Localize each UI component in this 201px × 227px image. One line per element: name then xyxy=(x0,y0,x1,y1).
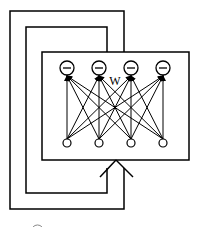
output-neuron xyxy=(60,61,74,75)
output-neuron xyxy=(124,61,138,75)
weight-label: W xyxy=(109,74,121,88)
output-neuron xyxy=(92,61,106,75)
network-diagram: W xyxy=(0,0,201,227)
input-neuron xyxy=(95,139,103,147)
input-neuron xyxy=(63,139,71,147)
input-neuron xyxy=(159,139,167,147)
input-arrow-icon xyxy=(100,160,133,177)
partial-circle-fragment xyxy=(33,225,42,227)
input-neuron xyxy=(127,139,135,147)
output-neuron xyxy=(156,61,170,75)
